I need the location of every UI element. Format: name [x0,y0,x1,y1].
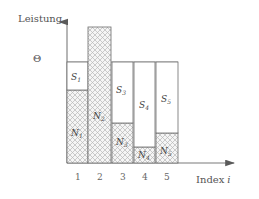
bar-group-3 [112,62,133,163]
bar-2-segment-N [88,27,111,163]
x-tick-label-2: 2 [97,172,103,182]
y-axis-title: Leistung [18,13,63,24]
chart-canvas: S1 S3 S4 S5 N1 N2 N3 N4 N5 Θ Leistung 1 … [0,0,259,199]
bar-1-segment-N [67,90,88,163]
x-tick-label-4: 4 [142,172,148,182]
bar-group-2 [88,27,111,163]
x-tick-label-3: 3 [120,172,126,182]
theta-axis-label: Θ [33,53,41,64]
x-axis-title: Indexi [196,174,231,185]
x-tick-label-5: 5 [164,172,170,182]
bar-group-4 [134,62,155,163]
x-tick-label-1: 1 [75,172,81,182]
chart-figure: S1 S3 S4 S5 N1 N2 N3 N4 N5 Θ Leistung 1 … [0,0,259,199]
